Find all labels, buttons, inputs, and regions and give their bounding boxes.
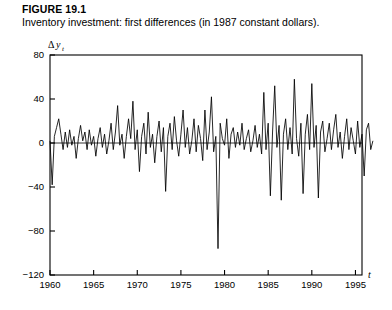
x-tick-label: 1980 <box>214 279 235 290</box>
y-tick-label: 40 <box>33 93 44 104</box>
chart-plot-area: Δ y t t 80400−40−80−120 1960196519701975… <box>0 0 392 310</box>
x-axis-label: t <box>368 269 371 280</box>
figure-container: FIGURE 19.1 Inventory investment: first … <box>0 0 392 310</box>
y-axis-label: Δ y t <box>48 39 65 53</box>
x-tick-label: 1985 <box>258 279 279 290</box>
data-series-line <box>50 79 373 248</box>
series-polyline <box>50 79 373 248</box>
y-axis-label-var: y <box>55 39 61 50</box>
y-axis-label-delta: Δ <box>48 39 55 50</box>
x-tick-label: 1995 <box>345 279 366 290</box>
x-tick-label: 1970 <box>127 279 148 290</box>
x-tick-label: 1990 <box>301 279 322 290</box>
y-tick-label: −80 <box>28 225 44 236</box>
x-tick-label: 1960 <box>39 279 60 290</box>
y-tick-label: −40 <box>28 181 44 192</box>
plot-frame <box>50 55 362 275</box>
x-tick-label: 1975 <box>170 279 191 290</box>
y-tick-label: 0 <box>39 137 44 148</box>
x-tick-label: 1965 <box>83 279 104 290</box>
x-axis-ticks: 19601965197019751980198519901995 <box>39 270 366 290</box>
y-tick-label: 80 <box>33 49 44 60</box>
y-axis-label-subscript: t <box>62 45 65 53</box>
plot-frame-rect <box>50 55 362 275</box>
